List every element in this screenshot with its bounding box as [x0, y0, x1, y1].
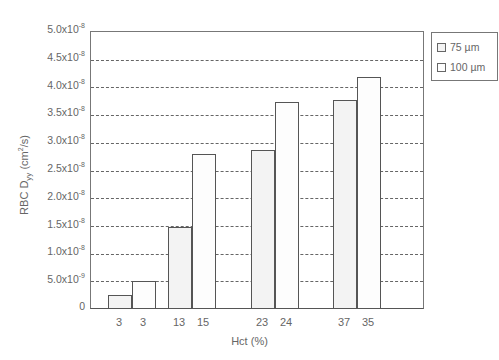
y-tick-label: 5.0x10-9 — [47, 272, 85, 285]
x-tick-label: 3 — [116, 316, 122, 328]
y-tick-label: 0 — [79, 300, 85, 312]
y-tick-label: 1.0x10-8 — [47, 244, 85, 257]
x-tick-label: 37 — [338, 316, 350, 328]
gridline — [91, 60, 423, 61]
y-tick-label: 5.0x10-8 — [47, 22, 85, 35]
plot-area — [90, 31, 424, 309]
legend: 75 µm 100 µm — [431, 32, 498, 81]
y-tick-label: 4.0x10-8 — [47, 78, 85, 91]
bar-75m-hct-3 — [108, 295, 132, 308]
x-tick-label: 23 — [256, 316, 268, 328]
legend-item-75um: 75 µm — [437, 41, 479, 53]
y-tick-label: 3.0x10-8 — [47, 133, 85, 146]
y-tick-label: 2.0x10-8 — [47, 189, 85, 202]
legend-swatch-75um — [437, 43, 446, 52]
legend-swatch-100um — [437, 63, 446, 72]
y-tick-label: 4.5x10-8 — [47, 50, 85, 63]
y-axis-label: RBC Dyy (cm2/s) — [17, 135, 33, 215]
x-tick-label: 3 — [140, 316, 146, 328]
y-tick-label: 1.5x10-8 — [47, 217, 85, 230]
bar-100m-hct-15 — [192, 154, 216, 308]
bar-75m-hct-13 — [168, 227, 192, 308]
bar-75m-hct-23 — [251, 150, 275, 308]
y-tick-label: 3.5x10-8 — [47, 105, 85, 118]
x-axis-label: Hct (%) — [0, 335, 499, 347]
x-tick-label: 13 — [173, 316, 185, 328]
bar-100m-hct-3 — [132, 281, 156, 308]
legend-item-100um: 100 µm — [437, 61, 485, 73]
bar-100m-hct-35 — [357, 77, 381, 308]
x-tick-label: 15 — [197, 316, 209, 328]
x-tick-label: 35 — [362, 316, 374, 328]
bar-75m-hct-37 — [333, 100, 357, 308]
x-tick-label: 24 — [280, 316, 292, 328]
y-tick-label: 2.5x10-8 — [47, 161, 85, 174]
bar-100m-hct-24 — [275, 102, 299, 308]
